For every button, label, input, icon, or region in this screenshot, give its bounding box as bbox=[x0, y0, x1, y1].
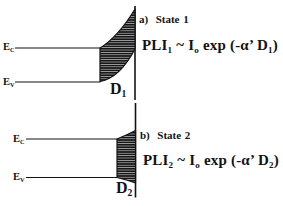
panel-b-formula: PLI2 ~ Io exp (-α’ D2) bbox=[143, 153, 279, 168]
valence-band-label-state1: EV bbox=[3, 77, 15, 88]
figure-canvas: EC EV a) State 1 PLI1 ~ Io exp (-α’ D1) … bbox=[0, 0, 283, 206]
depletion-region-state1 bbox=[100, 9, 135, 82]
band-diagram-graphics bbox=[0, 0, 283, 206]
conduction-band-label-state2: EC bbox=[13, 134, 25, 145]
valence-band-label-state2: EV bbox=[13, 172, 25, 183]
panel-a-caption: a) State 1 bbox=[139, 14, 189, 25]
conduction-band-label-state1: EC bbox=[3, 42, 15, 53]
depletion-width-label-d1: D1 bbox=[110, 81, 126, 97]
panel-b-caption: b) State 2 bbox=[140, 130, 190, 141]
depletion-region-state2 bbox=[117, 131, 136, 184]
panel-a-formula: PLI1 ~ Io exp (-α’ D1) bbox=[142, 38, 278, 53]
depletion-width-label-d2: D2 bbox=[116, 180, 132, 196]
